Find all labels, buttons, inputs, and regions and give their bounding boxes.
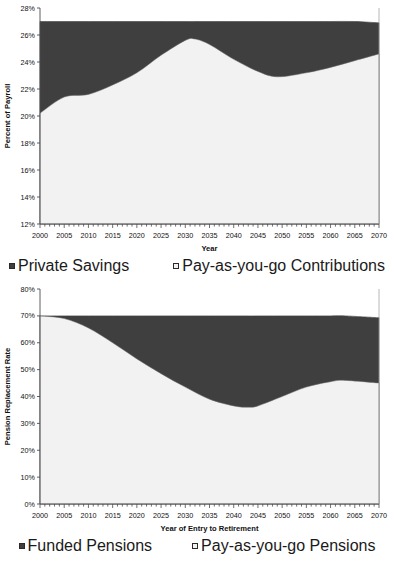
legend-label-funded-pensions: Funded Pensions bbox=[28, 541, 153, 550]
x-tick-label: 2000 bbox=[32, 511, 48, 520]
legend-item-funded-pensions[interactable]: Funded Pensions bbox=[19, 541, 153, 550]
y-axis-title: Percent of Payroll bbox=[3, 84, 12, 149]
legend-swatch-payg-contributions bbox=[173, 263, 179, 269]
x-tick-label: 2070 bbox=[371, 231, 387, 240]
x-tick-label: 2060 bbox=[323, 511, 339, 520]
x-tick-label: 2040 bbox=[226, 511, 242, 520]
x-tick-label: 2030 bbox=[177, 231, 193, 240]
x-tick-label: 2000 bbox=[32, 231, 48, 240]
chart-top-canvas: 28%26%24%22%20%18%16%14%12%2000200520102… bbox=[0, 0, 394, 283]
x-tick-label: 2030 bbox=[177, 511, 193, 520]
chart-pension-replacement-rate: 80%70%60%50%40%30%20%10%0%20002005201020… bbox=[0, 283, 394, 565]
x-tick-label: 2055 bbox=[298, 231, 314, 240]
x-tick-label: 2020 bbox=[129, 511, 145, 520]
y-tick-label: 50% bbox=[21, 365, 36, 374]
y-tick-label: 0% bbox=[25, 500, 36, 509]
legend-bottom: Funded Pensions Pay-as-you-go Pensions bbox=[0, 541, 394, 550]
y-tick-label: 30% bbox=[21, 419, 36, 428]
y-tick-label: 20% bbox=[21, 112, 36, 121]
x-tick-label: 2040 bbox=[226, 231, 242, 240]
y-tick-label: 70% bbox=[21, 311, 36, 320]
x-axis-title: Year bbox=[201, 244, 217, 253]
legend-item-private-savings[interactable]: Private Savings bbox=[9, 261, 129, 270]
legend-label-private-savings: Private Savings bbox=[18, 261, 129, 270]
x-tick-label: 2070 bbox=[371, 511, 387, 520]
legend-label-payg-pensions: Pay-as-you-go Pensions bbox=[201, 541, 375, 550]
x-tick-label: 2025 bbox=[153, 511, 169, 520]
legend-top: Private Savings Pay-as-you-go Contributi… bbox=[0, 261, 394, 270]
x-tick-label: 2015 bbox=[105, 511, 121, 520]
y-tick-label: 60% bbox=[21, 338, 36, 347]
y-tick-label: 10% bbox=[21, 473, 36, 482]
y-axis-title: Pension Replacement Rate bbox=[3, 348, 12, 445]
y-tick-label: 18% bbox=[21, 139, 36, 148]
y-tick-label: 14% bbox=[21, 193, 36, 202]
x-tick-label: 2025 bbox=[153, 231, 169, 240]
x-tick-label: 2050 bbox=[274, 231, 290, 240]
legend-swatch-payg-pensions bbox=[192, 543, 198, 549]
legend-swatch-private-savings bbox=[9, 263, 15, 269]
y-tick-label: 22% bbox=[21, 85, 36, 94]
y-tick-label: 24% bbox=[21, 58, 36, 67]
x-tick-label: 2065 bbox=[347, 231, 363, 240]
x-tick-label: 2045 bbox=[250, 511, 266, 520]
y-tick-label: 28% bbox=[21, 4, 36, 13]
legend-gap bbox=[129, 261, 173, 270]
x-tick-label: 2055 bbox=[298, 511, 314, 520]
y-tick-label: 80% bbox=[21, 285, 36, 294]
x-tick-label: 2035 bbox=[202, 231, 218, 240]
x-tick-label: 2010 bbox=[80, 511, 96, 520]
x-tick-label: 2015 bbox=[105, 231, 121, 240]
x-tick-label: 2050 bbox=[274, 511, 290, 520]
x-tick-label: 2035 bbox=[202, 511, 218, 520]
x-tick-label: 2045 bbox=[250, 231, 266, 240]
x-tick-label: 2005 bbox=[56, 231, 72, 240]
x-axis-title: Year of Entry to Retirement bbox=[161, 524, 259, 533]
legend-item-payg-pensions[interactable]: Pay-as-you-go Pensions bbox=[192, 541, 375, 550]
y-tick-label: 12% bbox=[21, 220, 36, 229]
x-tick-label: 2005 bbox=[56, 511, 72, 520]
y-tick-label: 16% bbox=[21, 166, 36, 175]
legend-item-payg-contributions[interactable]: Pay-as-you-go Contributions bbox=[173, 261, 385, 270]
x-tick-label: 2060 bbox=[323, 231, 339, 240]
x-tick-label: 2065 bbox=[347, 511, 363, 520]
chart-bottom-canvas: 80%70%60%50%40%30%20%10%0%20002005201020… bbox=[0, 283, 394, 565]
legend-gap bbox=[152, 541, 192, 550]
x-tick-label: 2020 bbox=[129, 231, 145, 240]
y-tick-label: 20% bbox=[21, 446, 36, 455]
x-tick-label: 2010 bbox=[80, 231, 96, 240]
legend-label-payg-contributions: Pay-as-you-go Contributions bbox=[182, 261, 385, 270]
y-tick-label: 26% bbox=[21, 31, 36, 40]
chart-percent-of-payroll: 28%26%24%22%20%18%16%14%12%2000200520102… bbox=[0, 0, 394, 283]
legend-swatch-funded-pensions bbox=[19, 543, 25, 549]
y-tick-label: 40% bbox=[21, 392, 36, 401]
figure-page: 28%26%24%22%20%18%16%14%12%2000200520102… bbox=[0, 0, 394, 565]
